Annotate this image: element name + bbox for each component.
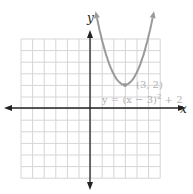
curve-arrow-left-icon: [94, 11, 100, 18]
vertex-point: [123, 83, 127, 87]
y-axis: [87, 30, 93, 190]
x-axis: [4, 105, 186, 111]
vertex-label: (3, 2): [136, 79, 163, 90]
arrow-down-icon: [87, 182, 93, 190]
y-axis-label: y: [86, 11, 94, 25]
arrow-left-icon: [4, 105, 12, 111]
graph: y x (3, 2) y = (x − 3)2 + 2: [0, 0, 193, 194]
equation-label: y = (x − 3)2 + 2: [101, 93, 183, 105]
parabola-curve: [97, 18, 153, 85]
curve-arrow-right-icon: [150, 11, 156, 18]
arrow-up-icon: [87, 30, 93, 38]
